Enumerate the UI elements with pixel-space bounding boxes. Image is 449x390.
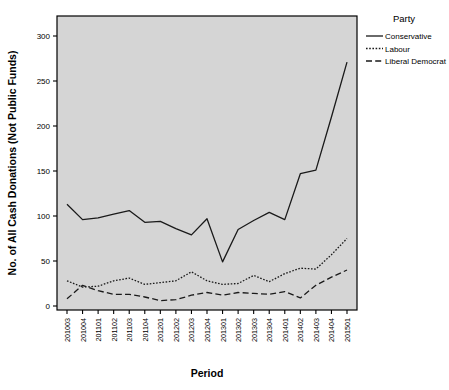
y-tick-label: 100 <box>37 212 51 221</box>
x-tick-label: 201204 <box>203 318 212 342</box>
x-tick-label: 201304 <box>265 318 274 342</box>
y-tick-label: 200 <box>37 122 51 131</box>
plot-area <box>57 16 357 310</box>
x-tick-label: 201404 <box>327 318 336 342</box>
y-tick-label: 0 <box>46 302 51 311</box>
y-axis-title: No. of All Cash Donations (Not Public Fu… <box>6 51 18 276</box>
y-tick-label: 300 <box>37 32 51 41</box>
x-tick-label: 201401 <box>281 318 290 342</box>
y-tick-label: 250 <box>37 77 51 86</box>
x-tick-label: 201403 <box>312 318 321 342</box>
x-tick-label: 201102 <box>110 318 119 341</box>
legend-label-conservative: Conservative <box>385 32 432 41</box>
x-tick-label: 201101 <box>94 318 103 341</box>
legend-title: Party <box>393 13 415 24</box>
x-axis-title: Period <box>191 367 224 379</box>
x-tick-label: 201402 <box>296 318 305 342</box>
x-tick-label: 201301 <box>219 318 228 342</box>
x-tick-label: 201003 <box>63 318 72 342</box>
y-tick-label: 150 <box>37 167 51 176</box>
legend-label-labour: Labour <box>385 45 410 54</box>
x-tick-label: 201302 <box>234 318 243 342</box>
x-tick-label: 201501 <box>343 318 352 342</box>
x-tick-label: 201203 <box>187 318 196 342</box>
x-tick-label: 201201 <box>156 318 165 342</box>
line-chart: 050100150200250300 201003201004201101201… <box>0 0 449 390</box>
x-tick-label: 201103 <box>125 318 134 341</box>
x-tick-label: 201202 <box>172 318 181 342</box>
y-tick-label: 50 <box>41 257 50 266</box>
x-tick-label: 201004 <box>79 318 88 342</box>
x-tick-label: 201104 <box>141 318 150 341</box>
legend-label-liberal-democrat: Liberal Democrat <box>385 57 447 66</box>
chart-container: 050100150200250300 201003201004201101201… <box>0 0 449 390</box>
x-tick-label: 201303 <box>250 318 259 342</box>
